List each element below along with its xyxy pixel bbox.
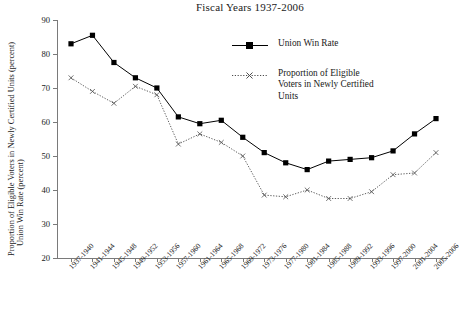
legend-item-proportion-eligible-voters: Proportion of Eligible Voters in Newly C… xyxy=(232,68,442,103)
y-tick-label: 80 xyxy=(28,49,50,59)
data-point-marker xyxy=(197,121,202,126)
data-point-marker xyxy=(112,101,117,106)
data-point-marker xyxy=(69,75,74,80)
y-axis-tick xyxy=(53,122,57,123)
y-axis-tick xyxy=(53,88,57,89)
data-point-marker xyxy=(262,150,267,155)
data-point-marker xyxy=(305,167,310,172)
chart-title-text: Fiscal Years 1937-2006 xyxy=(158,1,304,13)
y-axis-tick xyxy=(53,224,57,225)
y-tick-label: 30 xyxy=(28,219,50,229)
data-point-marker xyxy=(219,140,224,145)
data-point-marker xyxy=(369,155,374,160)
legend-marker-solid-square-icon xyxy=(232,41,268,50)
y-axis-line xyxy=(57,20,58,258)
data-point-marker xyxy=(240,154,245,159)
chart-title: Fiscal Years 1937-2006 xyxy=(0,1,462,13)
data-point-marker xyxy=(154,85,159,90)
data-point-marker xyxy=(412,131,417,136)
data-point-marker xyxy=(240,135,245,140)
data-point-marker xyxy=(111,60,116,65)
data-point-marker xyxy=(391,172,396,177)
y-axis-tick xyxy=(53,156,57,157)
y-axis-title-line-2: Proportion of Eligible Voters in Newly C… xyxy=(7,42,16,256)
data-point-marker xyxy=(176,142,181,147)
y-axis-tick xyxy=(53,20,57,21)
data-point-marker xyxy=(154,92,159,97)
legend-label-line-3: Units xyxy=(278,91,298,101)
legend-label-line-2: Voters in Newly Certified xyxy=(278,79,374,89)
y-tick-label: 40 xyxy=(28,185,50,195)
data-point-marker xyxy=(348,196,353,201)
data-point-marker xyxy=(348,157,353,162)
data-point-marker xyxy=(197,132,202,137)
legend-item-union-win-rate: Union Win Rate xyxy=(232,38,442,50)
data-point-marker xyxy=(219,118,224,123)
data-point-marker xyxy=(434,150,439,155)
data-point-marker xyxy=(68,41,73,46)
data-point-marker xyxy=(390,148,395,153)
legend-marker-dotted-x-icon xyxy=(232,71,268,80)
data-point-marker xyxy=(133,84,138,89)
legend-label-union-win-rate: Union Win Rate xyxy=(278,38,442,50)
chart-container: Fiscal Years 1937-2006 Union Win Rate (p… xyxy=(0,0,462,309)
data-point-marker xyxy=(283,194,288,199)
y-tick-label: 60 xyxy=(28,117,50,127)
x-axis-tick-labels: 1937-19401941-19441945-19481949-19521953… xyxy=(0,262,462,309)
y-axis-tick xyxy=(53,54,57,55)
legend-label-line-1: Proportion of Eligible xyxy=(278,68,360,78)
data-point-marker xyxy=(283,160,288,165)
chart-legend: Union Win Rate Proportion of Eligible Vo… xyxy=(232,38,442,120)
data-point-marker xyxy=(369,189,374,194)
y-axis-tick xyxy=(53,258,57,259)
y-axis-title: Union Win Rate (percent) Proportion of E… xyxy=(0,0,26,260)
y-tick-label: 90 xyxy=(28,15,50,25)
data-point-marker xyxy=(176,114,181,119)
y-tick-label: 70 xyxy=(28,83,50,93)
data-point-marker xyxy=(305,188,310,193)
legend-label-proportion-eligible-voters: Proportion of Eligible Voters in Newly C… xyxy=(278,68,442,103)
data-point-marker xyxy=(90,89,95,94)
y-tick-label: 50 xyxy=(28,151,50,161)
data-point-marker xyxy=(90,33,95,38)
y-axis-tick xyxy=(53,190,57,191)
data-point-marker xyxy=(133,75,138,80)
data-point-marker xyxy=(326,159,331,164)
